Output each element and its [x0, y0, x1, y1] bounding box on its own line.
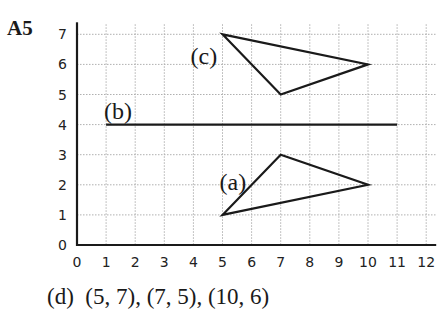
label-c: (c): [190, 43, 217, 69]
answer-caption: (d) (5, 7), (7, 5), (10, 6): [47, 284, 269, 310]
label-b: (b): [104, 98, 132, 124]
triangle-c: [223, 34, 369, 94]
x-tick-label: 2: [131, 254, 140, 270]
x-tick-label: 6: [247, 254, 256, 270]
axes: [76, 22, 436, 246]
y-tick-label: 5: [58, 87, 67, 103]
x-tick-label: 10: [359, 254, 377, 270]
coordinate-grid: 012345678910111201234567 (a)(b)(c): [0, 0, 448, 280]
y-tick-label: 2: [58, 177, 67, 193]
y-tick-label: 0: [58, 237, 67, 253]
x-tick-label: 0: [73, 254, 82, 270]
y-tick-label: 1: [58, 207, 67, 223]
y-tick-label: 3: [58, 147, 67, 163]
y-tick-label: 4: [58, 117, 67, 133]
x-tick-label: 5: [218, 254, 227, 270]
x-tick-label: 4: [189, 254, 198, 270]
coordinate-diagram: A5 012345678910111201234567 (a)(b)(c) (d…: [0, 0, 448, 329]
x-tick-label: 9: [334, 254, 343, 270]
grid-lines: [77, 24, 436, 245]
x-tick-label: 11: [388, 254, 406, 270]
x-tick-label: 8: [305, 254, 314, 270]
y-tick-label: 7: [58, 26, 67, 42]
x-tick-label: 3: [160, 254, 169, 270]
x-tick-label: 7: [276, 254, 285, 270]
y-tick-label: 6: [58, 56, 67, 72]
x-tick-label: 12: [417, 254, 435, 270]
label-a: (a): [220, 169, 247, 195]
tick-labels: 012345678910111201234567: [58, 26, 435, 270]
x-tick-label: 1: [102, 254, 111, 270]
shapes: (a)(b)(c): [104, 34, 397, 215]
